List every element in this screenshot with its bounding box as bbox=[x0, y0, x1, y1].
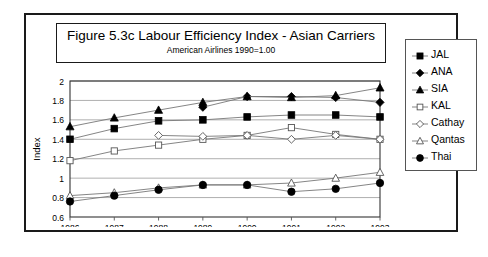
title-box: Figure 5.3c Labour Efficiency Index - As… bbox=[56, 23, 386, 63]
filled-circle-icon bbox=[412, 150, 428, 162]
open-square-icon bbox=[412, 99, 428, 111]
chart-legend: JALANASIAKALCathayQantasThai bbox=[405, 39, 477, 171]
chart-plot: 0.60.811.21.41.61.8219861987198819891990… bbox=[26, 67, 460, 227]
series-sia bbox=[66, 84, 384, 130]
legend-item-qantas[interactable]: Qantas bbox=[412, 130, 476, 147]
filled-diamond-icon bbox=[412, 65, 428, 77]
legend-item-thai[interactable]: Thai bbox=[412, 147, 476, 164]
y-axis-tick-label: 1.2 bbox=[52, 154, 64, 164]
filled-square-icon bbox=[412, 48, 428, 60]
y-axis-tick-label: 1.4 bbox=[52, 135, 64, 145]
x-axis-tick-label: 1993 bbox=[371, 223, 390, 227]
figure-frame: Figure 5.3c Labour Efficiency Index - As… bbox=[24, 13, 458, 232]
chart-title: Figure 5.3c Labour Efficiency Index - As… bbox=[57, 27, 385, 44]
legend-item-cathay[interactable]: Cathay bbox=[412, 113, 476, 130]
y-axis-tick-label: 1 bbox=[59, 174, 64, 184]
legend-item-sia[interactable]: SIA bbox=[412, 79, 476, 96]
open-triangle-icon bbox=[412, 133, 428, 145]
legend-item-ana[interactable]: ANA bbox=[412, 62, 476, 79]
legend-label: KAL bbox=[431, 99, 451, 111]
legend-label: ANA bbox=[431, 65, 453, 77]
x-axis-tick-label: 1988 bbox=[149, 223, 168, 227]
x-axis-tick-label: 1992 bbox=[326, 223, 345, 227]
legend-label: SIA bbox=[431, 82, 448, 94]
legend-label: JAL bbox=[431, 48, 449, 60]
legend-item-kal[interactable]: KAL bbox=[412, 96, 476, 113]
x-axis-tick-label: 1987 bbox=[105, 223, 124, 227]
x-axis-tick-label: 1989 bbox=[193, 223, 212, 227]
legend-label: Qantas bbox=[431, 133, 465, 145]
y-axis-tick-label: 0.6 bbox=[52, 213, 64, 223]
series-thai bbox=[66, 179, 383, 205]
legend-label: Thai bbox=[431, 150, 451, 162]
y-axis-tick-label: 2 bbox=[59, 77, 64, 87]
y-axis-tick-label: 1.8 bbox=[52, 96, 64, 106]
open-diamond-icon bbox=[412, 116, 428, 128]
chart-subtitle: American Airlines 1990=1.00 bbox=[57, 44, 385, 56]
y-axis-tick-label: 0.8 bbox=[52, 193, 64, 203]
legend-item-jal[interactable]: JAL bbox=[412, 45, 476, 62]
legend-label: Cathay bbox=[431, 116, 464, 128]
y-axis-title: Index bbox=[31, 137, 42, 160]
x-axis-tick-label: 1990 bbox=[238, 223, 257, 227]
y-axis-tick-label: 1.6 bbox=[52, 115, 64, 125]
filled-triangle-icon bbox=[412, 82, 428, 94]
x-axis-tick-label: 1991 bbox=[282, 223, 301, 227]
x-axis-tick-label: 1986 bbox=[61, 223, 80, 227]
